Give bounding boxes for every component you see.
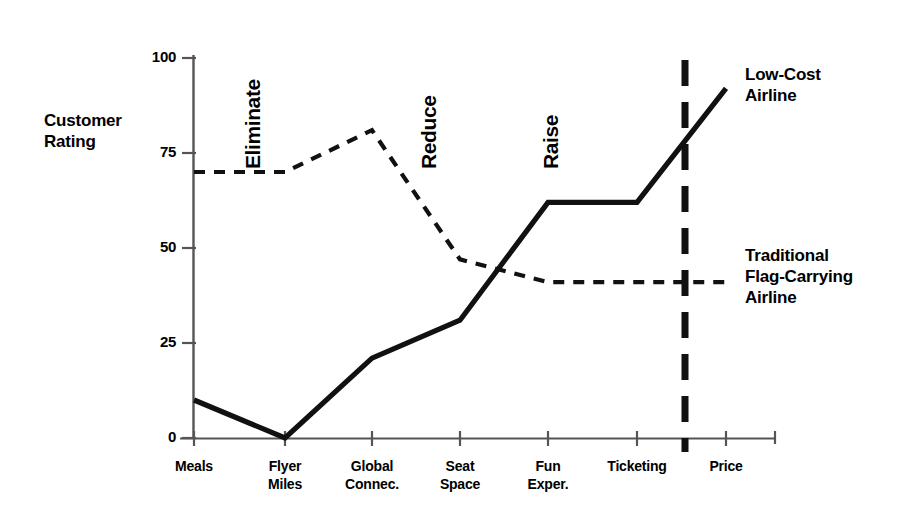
annotation-reduce: Reduce (417, 96, 441, 169)
value-curve-chart: Customer Rating 100 75 50 25 0 Meals Fly… (0, 0, 923, 517)
series-line-traditional-flag-carrying-airline (194, 130, 726, 282)
y-axis-title-line1: Customer (44, 110, 122, 131)
legend-traditional-line1: Traditional (745, 245, 853, 266)
series-line-low-cost-airline (194, 88, 726, 438)
y-tick-label-100: 100 (128, 48, 176, 65)
y-tick-label-75: 75 (128, 143, 176, 160)
legend-label-low-cost-airline: Low-Cost Airline (745, 64, 821, 106)
y-tick-label-50: 50 (128, 238, 176, 255)
y-tick-label-0: 0 (128, 428, 176, 445)
legend-low-cost-line1: Low-Cost (745, 64, 821, 85)
legend-traditional-line3: Airline (745, 287, 853, 308)
y-axis-title-line2: Rating (44, 131, 122, 152)
x-tick-label-price-line1: Price (666, 457, 786, 475)
annotation-eliminate: Eliminate (241, 79, 265, 169)
x-tick-label-fun-exper-line2: Exper. (488, 475, 608, 493)
y-axis-title: Customer Rating (44, 110, 122, 152)
x-tick-label-price: Price (666, 457, 786, 475)
y-tick-label-25: 25 (128, 333, 176, 350)
legend-label-traditional-flag-carrying-airline: Traditional Flag-Carrying Airline (745, 245, 853, 308)
legend-low-cost-line2: Airline (745, 85, 821, 106)
annotation-raise: Raise (539, 115, 563, 169)
legend-traditional-line2: Flag-Carrying (745, 266, 853, 287)
